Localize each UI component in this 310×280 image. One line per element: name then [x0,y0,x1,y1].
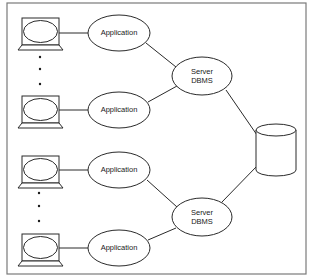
application-label: Application [101,105,138,114]
computer-icon [18,234,63,266]
client-computer-4 [18,234,63,266]
client-computer-3 [18,156,63,188]
database-node [256,124,296,176]
edge-app4-server2 [148,228,176,240]
client-computer-1 [18,18,63,50]
computer-icon [18,96,63,128]
application-label: Application [101,243,138,252]
application-node-4: Application [88,230,150,266]
server-label-line2: DBMS [191,76,213,85]
edge-app1-server1 [146,43,176,67]
server-label-line1: Server [191,208,214,217]
edge-server1-database [226,90,257,135]
server-dbms-node-2: Server DBMS [172,198,232,236]
edge-server2-database [222,166,257,202]
application-label: Application [101,28,138,37]
application-node-3: Application [88,152,150,188]
server-label-line1: Server [191,67,214,76]
application-node-2: Application [88,92,150,128]
edge-app2-server1 [148,86,177,102]
edge-app3-server2 [147,180,177,207]
database-cylinder-icon [256,124,296,176]
ellipsis-dots-top [39,56,41,85]
client-computer-2 [18,96,63,128]
application-label: Application [101,165,138,174]
computer-icon [18,156,63,188]
server-dbms-node-1: Server DBMS [172,57,232,95]
application-node-1: Application [88,15,150,51]
client-server-diagram: Application Application Application Appl… [0,0,310,280]
ellipsis-dots-bottom [38,192,40,222]
computer-icon [18,18,63,50]
server-label-line2: DBMS [191,217,213,226]
